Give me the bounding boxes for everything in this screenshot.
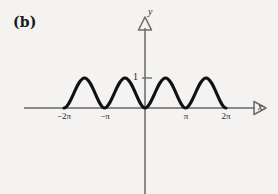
y-axis-label: y <box>148 6 152 17</box>
x-tick-label-neg-2pi: −2π <box>57 111 71 121</box>
y-tick-label-one: 1 <box>133 71 138 82</box>
x-axis-label: x <box>258 101 262 112</box>
plot-canvas <box>0 0 278 194</box>
x-tick-label-neg-pi: −π <box>100 111 110 121</box>
panel-label: (b) <box>13 14 37 30</box>
x-tick-label-2pi: 2π <box>221 111 230 121</box>
figure-panel: (b) y x −2π −π π 2π 1 <box>0 0 278 194</box>
x-tick-label-pi: π <box>184 111 189 121</box>
